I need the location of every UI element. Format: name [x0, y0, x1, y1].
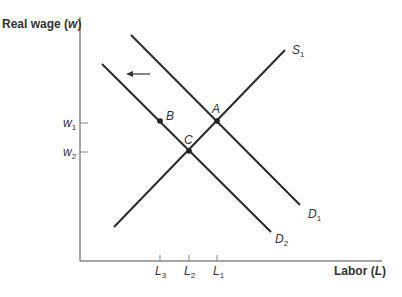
point-C [186, 148, 192, 154]
point-B [157, 118, 163, 124]
w1-label: w1 [63, 116, 77, 132]
point-A-label: A [211, 102, 220, 116]
w2-label: w2 [63, 145, 77, 161]
x-axis-title: Labor (L) [334, 264, 386, 278]
y-axis-title: Real wage (w) [2, 17, 81, 31]
labor-market-diagram: Real wage (w) Labor (L) w1 w2 L3 L2 L1 S… [0, 0, 402, 297]
supply-curve-S1 [114, 50, 285, 227]
L2-label: L2 [184, 264, 196, 280]
point-C-label: C [184, 133, 193, 147]
point-B-label: B [166, 109, 174, 123]
L3-label: L3 [155, 264, 167, 280]
D2-label: D2 [275, 232, 289, 248]
S1-label: S1 [292, 43, 305, 59]
point-A [214, 118, 220, 124]
L1-label: L1 [213, 264, 225, 280]
left-arrow-icon [126, 71, 150, 77]
demand-curve-D2 [102, 64, 271, 232]
D1-label: D1 [308, 207, 322, 223]
